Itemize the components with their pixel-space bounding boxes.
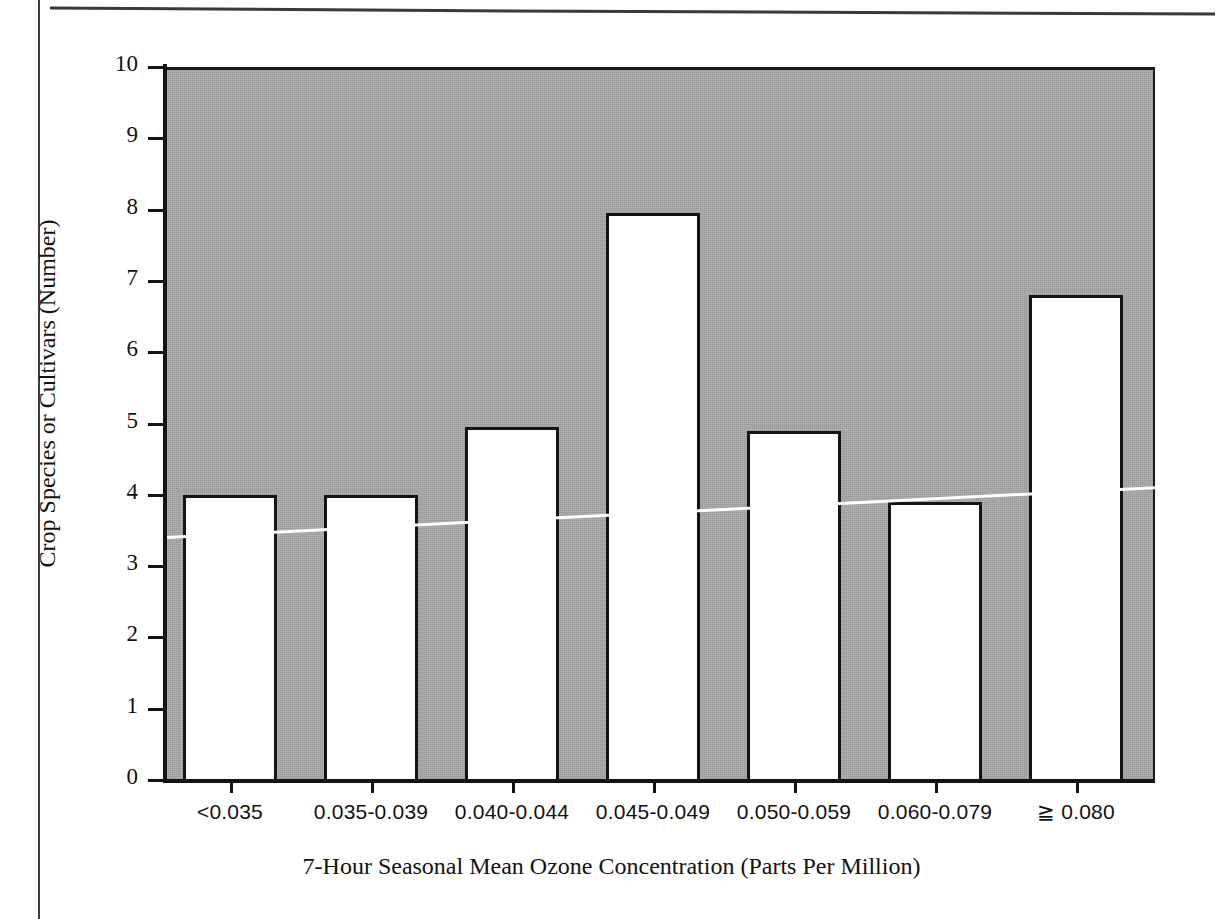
y-tick-label-3: 3 xyxy=(78,550,138,576)
y-tick-7 xyxy=(148,280,164,283)
bar xyxy=(747,431,841,782)
bar xyxy=(888,502,982,782)
bar xyxy=(324,495,418,782)
y-tick-0 xyxy=(148,779,164,782)
y-tick-10 xyxy=(148,66,164,69)
x-tick-2 xyxy=(512,780,515,793)
x-tick-label: ≧ 0.080 xyxy=(976,800,1176,824)
bar xyxy=(606,213,700,782)
x-tick-6 xyxy=(1076,780,1079,793)
y-tick-label-2: 2 xyxy=(78,621,138,647)
bar xyxy=(465,427,559,782)
x-tick-4 xyxy=(794,780,797,793)
y-tick-label-8: 8 xyxy=(78,194,138,220)
y-tick-2 xyxy=(148,636,164,639)
y-tick-label-6: 6 xyxy=(78,336,138,362)
page-top-rule-line xyxy=(50,6,1215,16)
x-tick-3 xyxy=(653,780,656,793)
y-tick-5 xyxy=(148,423,164,426)
x-tick-0 xyxy=(230,780,233,793)
bar xyxy=(1029,295,1123,782)
y-tick-1 xyxy=(148,708,164,711)
figure-container: 109876543210 <0.0350.035-0.0390.040-0.04… xyxy=(0,0,1223,919)
y-tick-8 xyxy=(148,209,164,212)
y-tick-3 xyxy=(148,565,164,568)
y-tick-6 xyxy=(148,351,164,354)
bar xyxy=(183,495,277,782)
x-axis-title: 7-Hour Seasonal Mean Ozone Concentration… xyxy=(0,853,1223,880)
y-tick-label-7: 7 xyxy=(78,265,138,291)
page-top-border xyxy=(50,6,1215,16)
y-tick-9 xyxy=(148,137,164,140)
y-tick-label-10: 10 xyxy=(78,51,138,77)
y-tick-label-5: 5 xyxy=(78,408,138,434)
y-tick-label-4: 4 xyxy=(78,479,138,505)
y-axis-title: Crop Species or Cultivars (Number) xyxy=(34,114,61,674)
y-tick-label-0: 0 xyxy=(78,764,138,790)
y-tick-4 xyxy=(148,494,164,497)
y-tick-label-1: 1 xyxy=(78,693,138,719)
x-tick-5 xyxy=(935,780,938,793)
x-tick-1 xyxy=(371,780,374,793)
y-tick-label-9: 9 xyxy=(78,122,138,148)
